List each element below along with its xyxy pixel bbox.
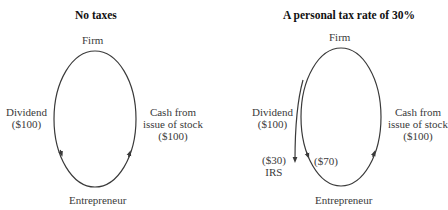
right-cash-label: Cash from issue of stock ($100) — [388, 106, 448, 142]
left-firm-label: Firm — [82, 34, 103, 46]
irs-arrow-icon — [295, 80, 303, 160]
left-dividend-label: Dividend ($100) — [6, 106, 47, 130]
left-entrepreneur-label: Entrepreneur — [69, 194, 126, 206]
diagram-lines — [0, 0, 448, 210]
irs-label: ($30) IRS — [262, 154, 286, 178]
left-cash-label: Cash from issue of stock ($100) — [143, 106, 203, 142]
dividend-arrow-icon — [60, 150, 61, 154]
left-panel-title: No taxes — [75, 9, 117, 21]
net-dividend-arrow-icon — [307, 152, 309, 156]
right-cycle — [295, 48, 381, 186]
right-firm-label: Firm — [329, 31, 350, 43]
right-dividend-label: Dividend ($100) — [252, 106, 293, 130]
net-dividend-label: ($70) — [314, 155, 338, 167]
left-cycle — [54, 51, 136, 187]
right-panel-title: A personal tax rate of 30% — [283, 9, 415, 21]
right-entrepreneur-label: Entrepreneur — [315, 194, 372, 206]
